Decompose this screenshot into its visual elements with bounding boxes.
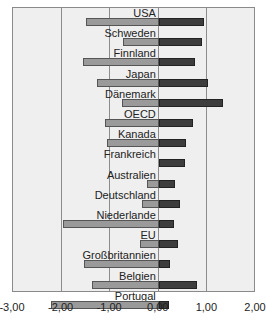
plot-area: USASchwedenFinnlandJapanDänemarkOECDKana…: [12, 7, 255, 292]
bar-series_1: [97, 79, 159, 87]
bar-chart: USASchwedenFinnlandJapanDänemarkOECDKana…: [0, 0, 266, 322]
bar-series_1: [123, 38, 159, 46]
x-tick-label: 2,00: [235, 301, 266, 313]
bar-series_2: [159, 220, 174, 228]
x-tick-label: -3,00: [0, 301, 32, 313]
bar-series_1: [147, 180, 159, 188]
gridline: [158, 8, 159, 291]
bar-series_2: [159, 240, 178, 248]
bar-series_2: [159, 260, 170, 268]
bar-series_2: [159, 200, 180, 208]
bar-series_2: [159, 180, 175, 188]
bar-series_2: [159, 38, 202, 46]
bar-series_1: [142, 200, 159, 208]
bar-series_2: [159, 99, 223, 107]
bar-series_1: [63, 220, 159, 228]
gridline: [61, 8, 62, 291]
bar-series_1: [92, 281, 159, 289]
bar-series_2: [159, 79, 208, 87]
x-tick-label: 1,00: [186, 301, 226, 313]
bar-series_2: [159, 18, 204, 26]
bar-series_1: [83, 58, 159, 66]
bar-series_1: [84, 260, 159, 268]
bar-series_2: [159, 281, 197, 289]
gridline: [206, 8, 207, 291]
bar-series_2: [159, 139, 186, 147]
x-tick-label: 0,00: [138, 301, 178, 313]
bar-series_1: [140, 240, 159, 248]
x-tick-label: -2,00: [41, 301, 81, 313]
bar-series_2: [159, 119, 194, 127]
bar-series_1: [105, 119, 159, 127]
category-label: Frankreich: [104, 149, 156, 160]
bar-series_2: [159, 159, 185, 167]
bar-series_1: [107, 139, 159, 147]
x-tick-label: -1,00: [89, 301, 129, 313]
bar-series_1: [122, 99, 159, 107]
bar-series_2: [159, 58, 195, 66]
bar-series_1: [86, 18, 159, 26]
